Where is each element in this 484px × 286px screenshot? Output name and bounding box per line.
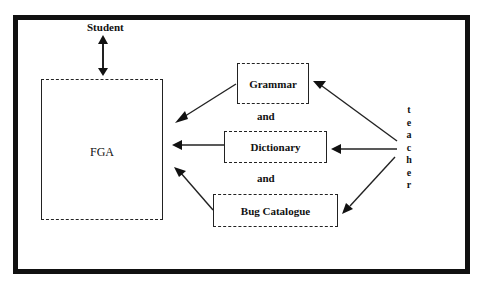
bug-catalogue-to-fga-arrow xyxy=(174,167,213,210)
teacher-to-bug-catalogue-arrow xyxy=(342,157,395,214)
teacher-to-dictionary-arrow xyxy=(331,144,397,154)
teacher-to-grammar-arrow xyxy=(313,81,397,141)
dictionary-to-fga-arrow xyxy=(172,140,224,150)
grammar-to-fga-arrow xyxy=(175,84,236,123)
arrows-layer xyxy=(0,0,484,286)
student-fga-double-arrow xyxy=(98,35,108,76)
